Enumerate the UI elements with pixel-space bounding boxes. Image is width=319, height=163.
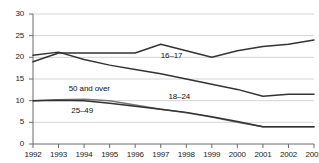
x-tick-label: 1992	[20, 151, 46, 159]
x-tick-label: 1996	[122, 151, 148, 159]
y-tick-label: 15	[2, 75, 24, 83]
x-tick-label: 1998	[173, 151, 199, 159]
x-tick-marks	[33, 144, 314, 148]
y-tick-label: 30	[2, 10, 24, 18]
y-tick-label: 0	[2, 140, 24, 148]
y-tick-label: 20	[2, 53, 24, 61]
x-tick-label: 1997	[148, 151, 174, 159]
chart-plot-area	[0, 0, 319, 163]
y-tick-label: 5	[2, 118, 24, 126]
x-tick-label: 2003	[301, 151, 319, 159]
x-tick-label: 1994	[71, 151, 97, 159]
x-tick-label: 2001	[250, 151, 276, 159]
x-tick-label: 2002	[275, 151, 301, 159]
series-label: 18–24	[168, 93, 190, 101]
x-tick-label: 1999	[199, 151, 225, 159]
series-label: 50 and over	[69, 85, 110, 93]
series-label: 16–17	[161, 52, 183, 60]
y-tick-label: 10	[2, 97, 24, 105]
series-label: 25–49	[71, 107, 93, 115]
x-tick-label: 2000	[224, 151, 250, 159]
line-chart: 051015202530 199219931994199519961997199…	[0, 0, 319, 163]
x-tick-label: 1995	[97, 151, 123, 159]
y-tick-label: 25	[2, 32, 24, 40]
x-tick-label: 1993	[46, 151, 72, 159]
y-tick-marks	[29, 14, 33, 144]
